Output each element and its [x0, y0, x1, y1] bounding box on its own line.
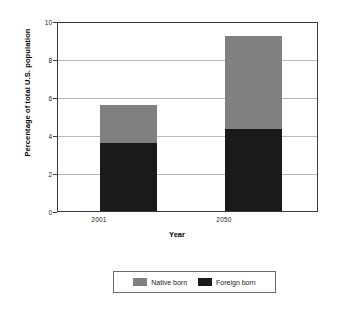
bar-2050[interactable]	[225, 36, 282, 211]
x-tick-label-2050: 2050	[194, 216, 254, 223]
y-tick-label-8: 8	[38, 57, 52, 64]
y-tick-mark-0	[53, 212, 57, 213]
bar-2001[interactable]	[100, 105, 157, 211]
bar-2050-segment-foreign-born[interactable]	[225, 129, 282, 211]
legend-item-native-born[interactable]: Native born	[133, 278, 187, 286]
x-tick-label-2001: 2001	[69, 216, 129, 223]
legend-swatch-native-born	[133, 278, 147, 286]
y-tick-label-2: 2	[38, 171, 52, 178]
bar-2050-segment-native-born[interactable]	[225, 36, 282, 129]
y-tick-label-4: 4	[38, 133, 52, 140]
plot-area	[57, 22, 318, 212]
x-axis-title: Year	[0, 230, 354, 239]
legend: Native born Foreign born	[113, 271, 276, 293]
legend-swatch-foreign-born	[198, 278, 212, 286]
stacked-bar-chart: Percentage of total U.S. population 10 8…	[0, 0, 354, 313]
bar-2001-segment-native-born[interactable]	[100, 105, 157, 143]
legend-item-foreign-born[interactable]: Foreign born	[198, 278, 256, 286]
y-tick-label-10: 10	[38, 19, 52, 26]
y-tick-label-6: 6	[38, 95, 52, 102]
legend-label-native-born: Native born	[151, 279, 187, 286]
bar-2001-segment-foreign-born[interactable]	[100, 143, 157, 211]
legend-label-foreign-born: Foreign born	[216, 279, 256, 286]
y-tick-label-0: 0	[38, 209, 52, 216]
